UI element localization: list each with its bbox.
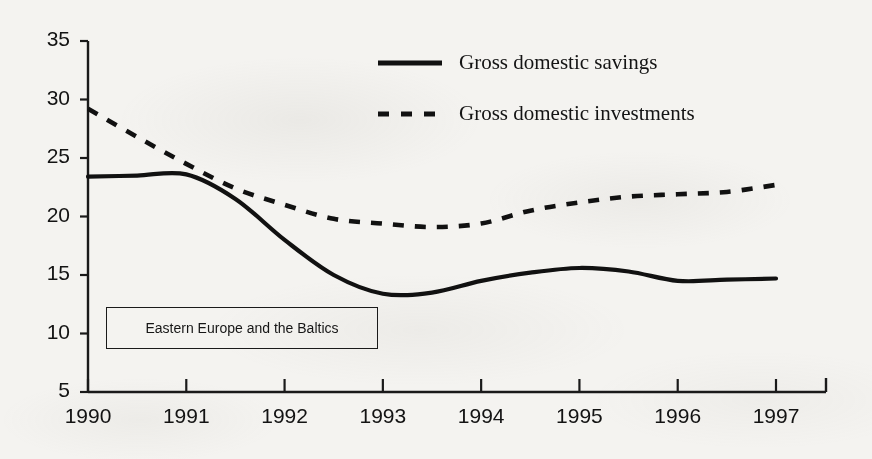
y-axis-tick-label: 15 bbox=[14, 261, 70, 285]
y-axis-tick-label: 10 bbox=[14, 320, 70, 344]
y-axis-tick-label: 25 bbox=[14, 144, 70, 168]
x-axis-ticks bbox=[88, 379, 776, 392]
x-axis-tick-label: 1996 bbox=[628, 404, 728, 428]
y-axis-tick-label: 20 bbox=[14, 203, 70, 227]
y-axis-tick-label: 5 bbox=[14, 378, 70, 402]
x-axis-tick-label: 1994 bbox=[431, 404, 531, 428]
x-axis-tick-label: 1992 bbox=[235, 404, 335, 428]
annotation-box: Eastern Europe and the Baltics bbox=[106, 307, 378, 349]
series-line-gross-domestic-investments bbox=[88, 109, 776, 227]
legend-item-gross-domestic-investments: Gross domestic investments bbox=[459, 101, 695, 126]
legend-item-gross-domestic-savings: Gross domestic savings bbox=[459, 50, 657, 75]
x-axis-tick-label: 1991 bbox=[136, 404, 236, 428]
annotation-label: Eastern Europe and the Baltics bbox=[145, 320, 338, 336]
y-axis-tick-label: 35 bbox=[14, 27, 70, 51]
y-axis-tick-label: 30 bbox=[14, 86, 70, 110]
x-axis-tick-label: 1990 bbox=[38, 404, 138, 428]
chart-plot-area bbox=[0, 0, 872, 459]
chart-figure: 3530252015105 19901991199219931994199519… bbox=[0, 0, 872, 459]
x-axis-tick-label: 1993 bbox=[333, 404, 433, 428]
series-line-gross-domestic-savings bbox=[88, 173, 776, 295]
x-axis-tick-label: 1995 bbox=[529, 404, 629, 428]
x-axis-tick-label: 1997 bbox=[726, 404, 826, 428]
